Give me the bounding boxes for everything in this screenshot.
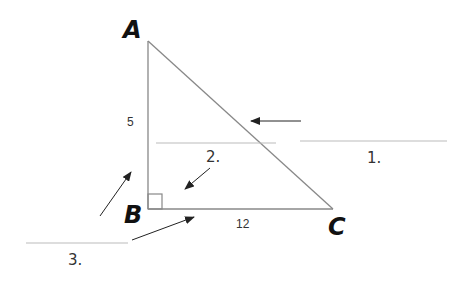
answer-blank-2-label: 2. (206, 148, 220, 166)
side-ac-hypotenuse (148, 41, 333, 209)
right-angle-marker (148, 194, 162, 209)
vertex-label-a: A (121, 16, 142, 44)
answer-blank-1-label: 1. (367, 149, 381, 167)
right-triangle-diagram: A B C 5 12 1. 2. 3. (0, 0, 469, 282)
side-length-bc: 12 (236, 217, 250, 231)
side-length-ab: 5 (127, 115, 134, 129)
triangle (148, 41, 333, 209)
answer-blank-3-label: 3. (68, 251, 82, 269)
arrow-2-icon (185, 168, 210, 189)
vertex-label-c: C (328, 213, 346, 241)
vertex-label-b: B (124, 201, 142, 229)
